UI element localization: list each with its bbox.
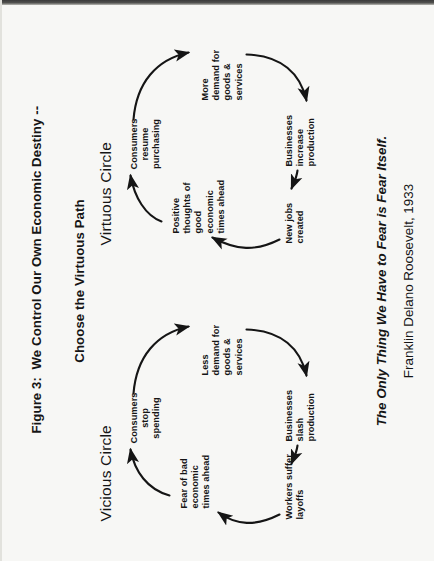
virtuous-circle-heading: Virtuous Circle (96, 141, 114, 245)
figure-title-line-1: Figure 3: We Control Our Own Economic De… (28, 105, 43, 433)
arrow-virtuous-4 (212, 237, 279, 247)
node-new-jobs-created: New jobs created (283, 202, 305, 243)
arrow-virtuous-1 (133, 52, 188, 119)
arrow-vicious-4 (218, 512, 279, 522)
arrow-vicious-2 (246, 329, 306, 375)
node-businesses-slash-production: Businesses slash production (283, 389, 317, 441)
vicious-circle-heading: Vicious Circle (96, 425, 114, 521)
node-positive-thoughts-good-times: Positive thoughts of good economic times… (170, 179, 226, 233)
arrow-vicious-5 (130, 449, 169, 495)
fdr-quote: The Only Thing We Have to Fear is Fear I… (373, 20, 388, 541)
figure-page: Figure 3: We Control Our Own Economic De… (0, 0, 434, 561)
figure-title-line-2: Choose the Virtuous Path (72, 18, 87, 543)
arrow-virtuous-5 (130, 175, 161, 221)
node-consumers-stop-spending: Consumers stop spending (128, 392, 162, 443)
node-less-demand-goods-services: Less demand for goods & services (199, 324, 244, 375)
rotated-figure-canvas: Figure 3: We Control Our Own Economic De… (0, 0, 434, 561)
arrow-vicious-1 (133, 326, 188, 393)
arrow-virtuous-2 (246, 54, 306, 100)
fdr-quote-attribution: Franklin Delano Roosevelt, 1933 (400, 20, 415, 541)
node-consumers-resume-purchasing: Consumers resume purchasing (128, 118, 162, 169)
node-fear-of-bad-economic-times: Fear of bad economic times ahead (178, 454, 212, 508)
arrow-virtuous-3 (291, 170, 297, 188)
node-workers-suffer-layoffs: Workers suffer layoffs (283, 454, 305, 519)
node-businesses-increase-production: Businesses increase production (283, 114, 317, 166)
node-more-demand-goods-services: More demand for goods & services (199, 49, 244, 100)
